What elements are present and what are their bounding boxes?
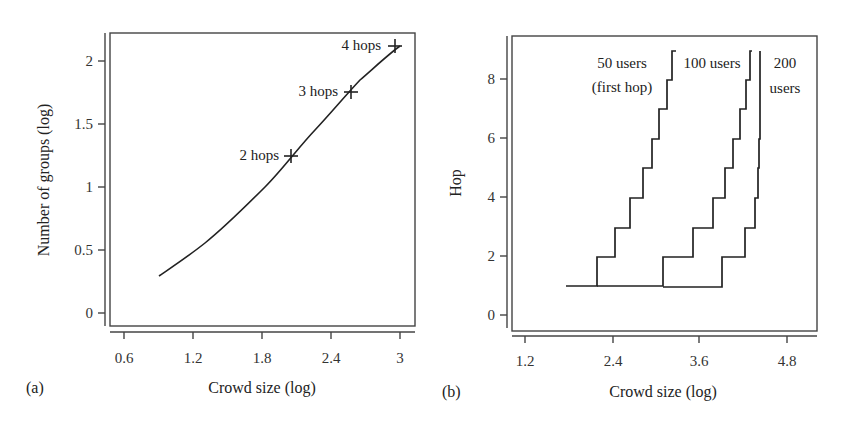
label-200-users: users xyxy=(770,80,801,96)
marker-label-3-hops: 3 hops xyxy=(298,83,338,99)
y-tick-label: 1.5 xyxy=(74,116,93,132)
y-tick-label: 2 xyxy=(86,53,94,69)
x-tick-label: 4.8 xyxy=(778,353,797,369)
marker-label-2-hops: 2 hops xyxy=(239,147,279,163)
x-tick-label: 1.2 xyxy=(184,350,203,366)
y-axis-title-b: Hop xyxy=(447,169,465,197)
y-tick-label: 0 xyxy=(86,305,94,321)
x-tick-label: 3.6 xyxy=(690,353,709,369)
x-ticks-a xyxy=(124,332,400,339)
panel-label-a: (a) xyxy=(26,379,44,397)
groups-curve xyxy=(159,46,400,276)
x-axis-title-a: Crowd size (log) xyxy=(208,379,316,397)
label-100-users: 100 users xyxy=(683,55,740,71)
x-tick-label: 3 xyxy=(396,350,404,366)
figure: 2 1.5 1 0.5 0 Number of groups (log) 0.6… xyxy=(0,0,854,434)
panel-a: 2 1.5 1 0.5 0 Number of groups (log) 0.6… xyxy=(26,33,415,397)
y-tick-label: 2 xyxy=(488,248,496,264)
label-50-users: 50 users xyxy=(597,55,647,71)
x-tick-label: 1.2 xyxy=(516,353,535,369)
x-tick-label: 0.6 xyxy=(115,350,134,366)
x-tick-label: 1.8 xyxy=(253,350,272,366)
y-tick-label: 8 xyxy=(488,71,496,87)
y-ticks-a xyxy=(98,61,105,313)
x-tick-label: 2.4 xyxy=(604,353,623,369)
y-axis-title-a: Number of groups (log) xyxy=(35,104,53,256)
label-first-hop: (first hop) xyxy=(592,79,652,96)
marker-label-4-hops: 4 hops xyxy=(341,37,381,53)
panel-b: 8 6 4 2 0 Hop 1.2 2.4 3.6 4.8 Crowd size… xyxy=(442,36,817,401)
y-tick-label: 6 xyxy=(488,130,496,146)
label-200: 200 xyxy=(774,55,797,71)
y-tick-label: 4 xyxy=(488,189,496,205)
x-tick-label: 2.4 xyxy=(322,350,341,366)
y-tick-label: 1 xyxy=(86,179,94,195)
x-axis-title-b: Crowd size (log) xyxy=(609,383,717,401)
x-ticks-b xyxy=(525,336,787,343)
y-tick-label: 0 xyxy=(488,307,496,323)
panel-label-b: (b) xyxy=(442,383,461,401)
y-tick-label: 0.5 xyxy=(74,242,93,258)
y-ticks-b xyxy=(500,79,507,315)
plot-frame-a xyxy=(110,33,415,326)
